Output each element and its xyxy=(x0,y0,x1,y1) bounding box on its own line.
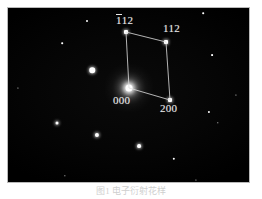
diffraction-plate-frame: 000112112200 xyxy=(7,7,250,183)
diffraction-spot xyxy=(89,67,95,73)
diffraction-spot xyxy=(235,94,236,95)
diffraction-spot xyxy=(202,12,204,14)
index-label-000: 000 xyxy=(113,95,130,106)
figure-caption: 图1 电子衍射花样 xyxy=(0,186,262,196)
label-digits: 12 xyxy=(122,14,134,26)
lattice-vector-g2 xyxy=(129,88,170,100)
diffraction-spot xyxy=(86,20,88,22)
diffraction-spot xyxy=(56,122,59,125)
index-label-200: 200 xyxy=(160,103,177,114)
diffraction-spot xyxy=(195,179,196,180)
diffraction-spot xyxy=(137,144,141,148)
lattice-vector-g1 xyxy=(126,32,129,88)
indexed-diffraction-spot-112 xyxy=(164,40,168,44)
indexed-diffraction-spot--112 xyxy=(124,30,128,34)
diffraction-spot xyxy=(17,87,18,88)
diffraction-spot xyxy=(64,175,65,176)
figure-root: 000112112200 图1 电子衍射花样 xyxy=(0,0,262,199)
diffraction-spot xyxy=(208,111,210,113)
diffraction-spot xyxy=(95,133,99,137)
index-label--112: 112 xyxy=(116,14,133,26)
lattice-vector-g1-parallel xyxy=(126,32,166,42)
diffraction-spot xyxy=(61,42,63,44)
diffraction-plate: 000112112200 xyxy=(8,8,249,182)
indexed-diffraction-spot-000 xyxy=(126,85,133,92)
diffraction-spot xyxy=(217,122,218,123)
diffraction-spot xyxy=(173,158,175,160)
lattice-vector-g2-parallel xyxy=(166,42,170,100)
index-label-112: 112 xyxy=(163,23,180,34)
diffraction-spot xyxy=(211,54,213,56)
